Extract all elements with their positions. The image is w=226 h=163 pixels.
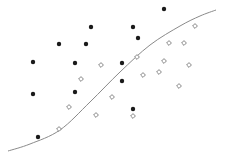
filled-point <box>73 90 77 94</box>
hollow-diamond-point <box>182 41 187 46</box>
hollow-diamond-point <box>94 113 99 118</box>
filled-point <box>36 135 40 139</box>
hollow-diamond-point <box>177 84 182 89</box>
scatter-plot <box>0 0 226 163</box>
hollow-diamond-points <box>57 24 198 132</box>
hollow-diamond-point <box>162 59 167 64</box>
filled-point <box>120 61 124 65</box>
filled-point <box>162 7 166 11</box>
hollow-diamond-point <box>141 73 146 78</box>
filled-point <box>57 42 61 46</box>
filled-point <box>73 61 77 65</box>
filled-point <box>89 25 93 29</box>
hollow-diamond-point <box>135 55 140 60</box>
filled-point <box>136 36 140 40</box>
hollow-diamond-point <box>57 127 62 132</box>
decision-boundary-curve <box>8 10 216 151</box>
hollow-diamond-point <box>79 77 84 82</box>
hollow-diamond-point <box>193 24 198 29</box>
filled-point <box>120 79 124 83</box>
hollow-diamond-point <box>157 70 162 75</box>
filled-point <box>84 42 88 46</box>
hollow-diamond-point <box>131 114 136 119</box>
filled-points <box>31 7 166 139</box>
filled-point <box>31 92 35 96</box>
hollow-diamond-point <box>99 63 104 68</box>
filled-point <box>131 107 135 111</box>
filled-point <box>131 25 135 29</box>
filled-point <box>31 60 35 64</box>
hollow-diamond-point <box>167 41 172 46</box>
hollow-diamond-point <box>110 95 115 100</box>
hollow-diamond-point <box>187 63 192 68</box>
hollow-diamond-point <box>67 105 72 110</box>
